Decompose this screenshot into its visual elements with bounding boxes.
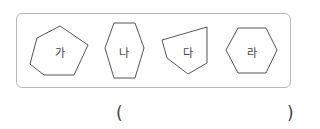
shape-na: 나 xyxy=(105,23,144,78)
shape-da: 다 xyxy=(162,27,207,74)
shape-ga: 가 xyxy=(30,26,88,75)
shape-label-ra: 라 xyxy=(247,47,257,60)
shape-label-da: 다 xyxy=(183,47,193,60)
shape-label-na: 나 xyxy=(119,47,129,60)
shape-ra: 라 xyxy=(226,28,277,73)
answer-open-paren: ( xyxy=(116,103,123,123)
answer-blank[interactable] xyxy=(128,104,284,122)
answer-close-paren: ) xyxy=(287,103,294,123)
shape-label-ga: 가 xyxy=(55,47,65,60)
